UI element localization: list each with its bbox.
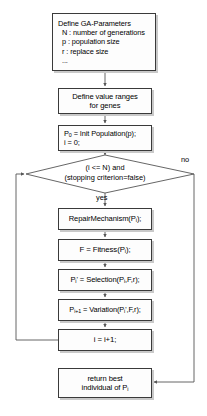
repair-call: RepairMechanism(P xyxy=(69,214,136,223)
sel-args: ,F,r); xyxy=(125,275,140,284)
node-increment[interactable]: i = i+1; xyxy=(58,329,152,351)
node-loop-condition-label: (i <= N) and (stopping criterion=false) xyxy=(38,163,172,185)
node-return-best[interactable]: return best individual of Pi xyxy=(58,368,152,398)
node-init-population[interactable]: P0 = Init Population(p); i = 0; xyxy=(58,125,152,151)
var-call: = Variation(P xyxy=(81,305,124,314)
params-n: N : number of generations xyxy=(62,28,145,37)
params-p: p : population size xyxy=(62,37,120,46)
ret-line1: return best xyxy=(87,374,122,383)
node-define-value-ranges-text: Define value ranges for genes xyxy=(59,92,151,111)
sel-call: ' = Selection(P xyxy=(76,275,123,284)
node-fitness[interactable]: F = Fitness(Pi); xyxy=(58,239,152,261)
ret-line2: individual of P xyxy=(82,383,128,392)
edge-label-yes: yes xyxy=(96,193,108,202)
node-define-value-ranges[interactable]: Define value ranges for genes xyxy=(58,88,152,114)
cond-line1: (i <= N) and xyxy=(85,163,124,172)
node-define-ga-parameters[interactable]: Define GA-Parameters N : number of gener… xyxy=(52,13,156,71)
params-title: Define GA-Parameters xyxy=(58,19,131,28)
node-fitness-text: F = Fitness(Pi); xyxy=(59,245,151,255)
fitness-call: F = Fitness(P xyxy=(79,245,124,254)
node-variation[interactable]: Pi+1 = Variation(Pi',F,r); xyxy=(58,299,152,321)
edge-no-to-return xyxy=(154,174,194,382)
ranges-line1: Define value ranges xyxy=(72,92,138,101)
init-assign: = Init Population(p); xyxy=(72,129,136,138)
node-return-best-text: return best individual of Pi xyxy=(59,374,151,393)
node-repair-mechanism-text: RepairMechanism(Pi); xyxy=(59,214,151,224)
var-args: ',F,r); xyxy=(125,305,141,314)
params-dots: ... xyxy=(62,56,68,65)
node-selection[interactable]: Pi' = Selection(Pi,F,r); xyxy=(58,269,152,291)
node-variation-text: Pi+1 = Variation(Pi',F,r); xyxy=(59,305,151,314)
ret-subscript: i xyxy=(127,386,128,392)
node-init-population-text: P0 = Init Population(p); i = 0; xyxy=(59,129,151,147)
ranges-line2: for genes xyxy=(90,101,121,110)
init-counter: i = 0; xyxy=(64,138,80,147)
node-increment-text: i = i+1; xyxy=(59,335,151,345)
node-selection-text: Pi' = Selection(Pi,F,r); xyxy=(59,275,151,285)
node-repair-mechanism[interactable]: RepairMechanism(Pi); xyxy=(58,208,152,230)
edge-label-no: no xyxy=(181,155,189,164)
node-define-ga-parameters-text: Define GA-Parameters N : number of gener… xyxy=(53,19,155,64)
cond-line2: (stopping criterion=false) xyxy=(64,173,145,182)
fitness-close: ); xyxy=(126,245,131,254)
repair-close: ); xyxy=(137,214,141,223)
edge-loopback-to-decision xyxy=(16,174,58,340)
params-r: r : replace size xyxy=(62,47,108,56)
